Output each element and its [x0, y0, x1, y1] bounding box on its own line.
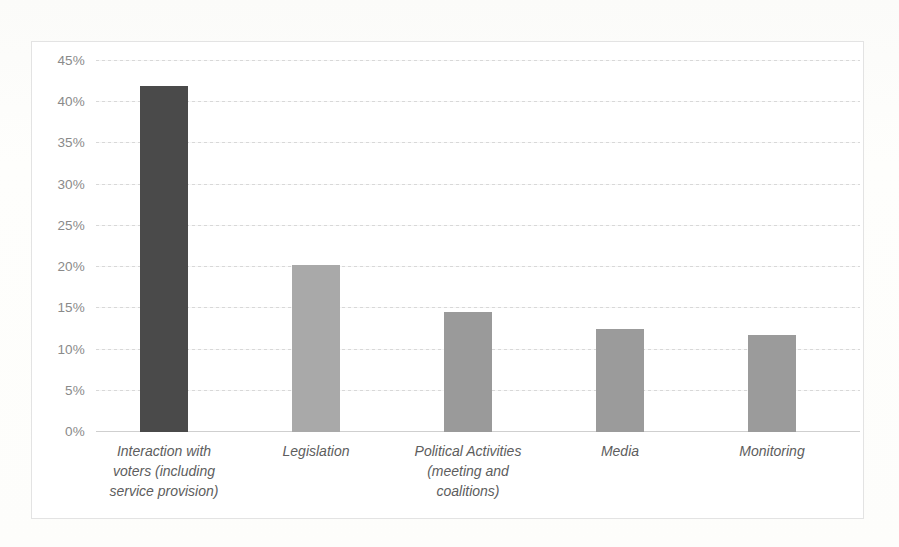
bar-legislation[interactable] [292, 265, 340, 432]
chart-frame: 45% 40% 35% 30% 25% 20% 15% 10% 5% 0% [31, 41, 864, 519]
ytick-label-35: 35% [57, 135, 85, 150]
ytick-label-20: 20% [57, 259, 85, 274]
bar-media[interactable] [596, 329, 644, 432]
gridline-40: 40% [96, 101, 860, 102]
bar-monitoring[interactable] [748, 335, 796, 432]
ytick-label-25: 25% [57, 217, 85, 232]
plot-area: 45% 40% 35% 30% 25% 20% 15% 10% 5% 0% [96, 61, 860, 432]
xaxis-label-political-activities: Political Activities (meeting and coalit… [383, 441, 553, 501]
ytick-label-0: 0% [65, 424, 85, 439]
gridline-25: 25% [96, 225, 860, 226]
ytick-label-40: 40% [57, 94, 85, 109]
bar-political-activities[interactable] [444, 312, 492, 432]
gridline-45: 45% [96, 60, 860, 61]
ytick-label-45: 45% [57, 53, 85, 68]
xaxis-label-monitoring: Monitoring [687, 441, 857, 461]
xaxis-label-interaction-with-voters: Interaction with voters (including servi… [79, 441, 249, 501]
ytick-label-30: 30% [57, 176, 85, 191]
ytick-label-10: 10% [57, 341, 85, 356]
bar-interaction-with-voters[interactable] [140, 86, 188, 432]
xaxis-label-legislation: Legislation [231, 441, 401, 461]
gridline-15: 15% [96, 307, 860, 308]
ytick-label-15: 15% [57, 300, 85, 315]
gridline-30: 30% [96, 184, 860, 185]
ytick-label-5: 5% [65, 382, 85, 397]
gridline-20: 20% [96, 266, 860, 267]
gridline-35: 35% [96, 142, 860, 143]
xaxis-label-media: Media [535, 441, 705, 461]
